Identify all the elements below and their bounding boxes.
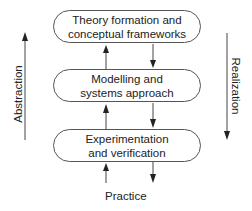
practice-label: Practice [105,190,147,202]
modelling-box-line2: systems approach [80,86,173,100]
realization-label: Realization [230,56,242,116]
experimentation-box-line2: and verification [88,146,165,160]
modelling-box: Modelling and systems approach [53,69,201,102]
theory-box: Theory formation and conceptual framewor… [53,10,201,43]
modelling-box-line1: Modelling and [91,72,163,86]
experimentation-box: Experimentation and verification [53,129,201,162]
theory-box-line2: conceptual frameworks [68,27,186,41]
theory-box-line1: Theory formation and [72,13,181,27]
abstraction-label: Abstraction [12,64,24,124]
experimentation-box-line1: Experimentation [85,132,168,146]
